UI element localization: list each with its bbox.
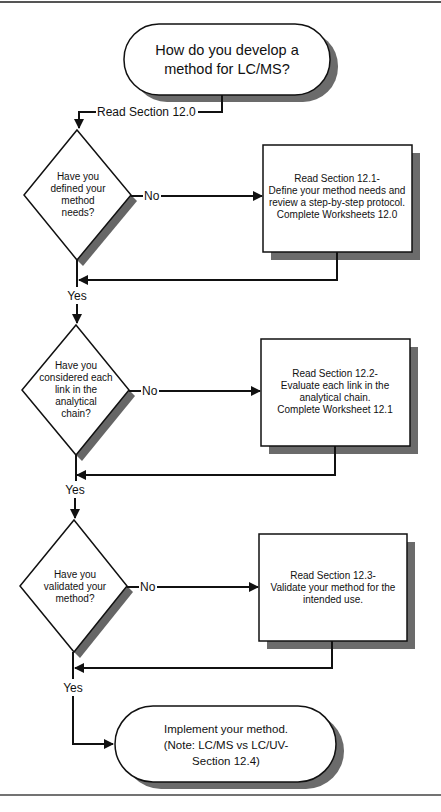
yes-label-2: Yes — [65, 483, 85, 497]
decision-3-line-3: method? — [56, 593, 95, 604]
decision-2-no-branch: No — [129, 384, 260, 398]
no-label-1: No — [144, 189, 160, 203]
decision-2-yes-branch: Yes — [65, 455, 85, 518]
decision-1-yes-branch: Yes — [67, 260, 87, 323]
action-1-line-3: review a step-by-step protocol. — [269, 197, 405, 208]
decision-3: Have you validated your method? — [20, 520, 133, 658]
action-1-line-4: Complete Worksheets 12.0 — [277, 209, 398, 220]
action-2-line-2: Evaluate each link in the — [281, 380, 390, 391]
end-line-1: Implement your method. — [164, 723, 288, 735]
action-box-2: Read Section 12.2- Evaluate each link in… — [261, 339, 418, 454]
decision-3-no-branch: No — [127, 580, 258, 594]
start-line-1: How do you develop a — [155, 42, 299, 58]
flowchart: How do you develop a method for LC/MS? R… — [0, 0, 441, 812]
yes-label-3: Yes — [63, 681, 83, 695]
end-line-2: (Note: LC/MS vs LC/UV- — [164, 739, 289, 751]
action-2-line-4: Complete Worksheet 12.1 — [277, 404, 393, 415]
yes-label-1: Yes — [67, 289, 87, 303]
decision-2-line-5: chain? — [61, 408, 91, 419]
action-3-line-1: Read Section 12.3- — [290, 570, 376, 581]
decision-2-line-3: link in the — [55, 384, 98, 395]
decision-1-no-branch: No — [131, 189, 262, 203]
no-label-3: No — [140, 580, 156, 594]
decision-2-line-4: analytical — [55, 396, 97, 407]
end-line-3: Section 12.4) — [192, 755, 260, 767]
action-box-1: Read Section 12.1- Define your method ne… — [263, 145, 420, 260]
action-2-line-3: analytical chain. — [299, 392, 370, 403]
decision-3-yes-branch: Yes — [63, 652, 113, 744]
action-3-line-2: Validate your method for the — [271, 582, 396, 593]
decision-2-line-2: considered each — [39, 372, 112, 383]
action-box-3: Read Section 12.3- Validate your method … — [259, 534, 415, 649]
start-line-2: method for LC/MS? — [164, 61, 290, 77]
start-connector-label: Read Section 12.0 — [97, 105, 196, 119]
start-terminator: How do you develop a method for LC/MS? — [124, 24, 338, 102]
action-2-line-1: Read Section 12.2- — [292, 368, 378, 379]
decision-3-line-2: validated your — [44, 581, 107, 592]
end-terminator: Implement your method. (Note: LC/MS vs L… — [115, 706, 344, 789]
decision-1-line-1: Have you — [57, 171, 99, 182]
decision-1-line-4: needs? — [62, 207, 95, 218]
decision-3-line-1: Have you — [54, 569, 96, 580]
action-1-line-2: Define your method needs and — [269, 185, 406, 196]
action-1-line-1: Read Section 12.1- — [294, 173, 380, 184]
decision-1: Have you defined your method needs? — [24, 130, 137, 266]
action-3-line-3: intended use. — [303, 594, 363, 605]
no-label-2: No — [142, 384, 158, 398]
decision-1-line-3: method — [61, 195, 94, 206]
decision-1-line-2: defined your — [50, 183, 106, 194]
decision-2-line-1: Have you — [55, 360, 97, 371]
decision-2: Have you considered each link in the ana… — [22, 325, 135, 461]
